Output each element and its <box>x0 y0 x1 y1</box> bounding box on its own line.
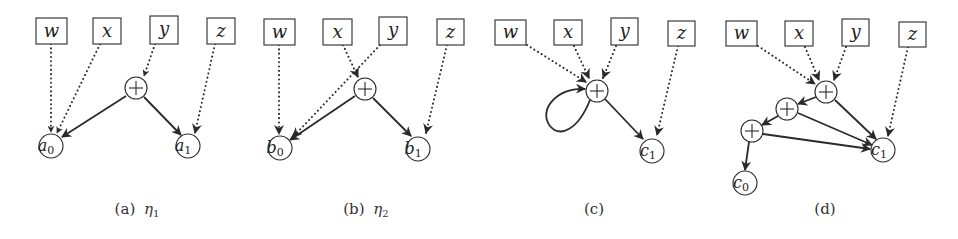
input-label-w: w <box>44 20 60 41</box>
sum-node-2 <box>776 98 798 120</box>
caption-b: (b) η2 <box>343 200 388 219</box>
input-box-z: z <box>437 19 464 45</box>
input-box-x: x <box>93 18 121 44</box>
edge-y-plus <box>603 46 616 78</box>
edge-plus1-plus2 <box>798 97 816 104</box>
edge-w-plus <box>527 45 586 82</box>
input-label-y: y <box>618 20 630 41</box>
input-box-y: y <box>379 17 407 45</box>
input-box-x: x <box>554 20 582 45</box>
panel-c: w x y z c1 (c) <box>495 18 695 218</box>
panel-b: w x y z b0 b1 <box>264 17 464 219</box>
input-label-x: x <box>102 20 112 41</box>
input-label-x: x <box>332 21 342 42</box>
edge-x-plus1 <box>805 47 819 80</box>
input-label-w: w <box>272 21 288 42</box>
output-node-a1: a1 <box>175 134 200 158</box>
output-node-b0: b0 <box>266 136 292 160</box>
input-box-w: w <box>726 21 757 46</box>
edge-plus-self-loop <box>546 89 590 131</box>
panel-d: w x y z <box>726 19 926 218</box>
input-box-x: x <box>323 19 352 45</box>
edge-plus-b1 <box>373 98 411 136</box>
output-node-c0: c0 <box>733 171 757 195</box>
edge-x-plus <box>343 45 358 77</box>
sum-node-1 <box>815 81 837 103</box>
input-label-x: x <box>563 21 573 42</box>
input-label-z: z <box>215 20 226 41</box>
input-label-y: y <box>849 21 861 42</box>
input-label-y: y <box>387 19 399 40</box>
output-node-c1: c1 <box>871 138 895 162</box>
caption-c: (c) <box>584 200 604 218</box>
panel-a: w x y z a0 a1 <box>36 16 235 219</box>
sum-node-3 <box>741 120 763 142</box>
input-label-w: w <box>503 21 519 42</box>
sum-node <box>586 80 608 102</box>
edge-z-c1 <box>888 47 908 136</box>
input-box-z: z <box>668 21 695 46</box>
input-box-y: y <box>842 19 869 46</box>
edge-plus-c1 <box>605 99 643 139</box>
input-box-y: y <box>611 18 638 45</box>
figure-canvas: w x y z a0 a1 <box>0 0 958 239</box>
input-label-x: x <box>794 22 804 43</box>
edge-plus3-c0 <box>745 142 749 170</box>
edge-z-a1 <box>195 44 215 133</box>
edge-y-plus <box>144 44 155 76</box>
input-label-w: w <box>734 22 750 43</box>
edge-plus-b0 <box>290 96 355 140</box>
input-label-z: z <box>445 21 456 42</box>
edge-plus-a1 <box>144 97 181 135</box>
caption-d: (d) <box>814 200 835 218</box>
input-label-z: z <box>907 23 918 44</box>
output-node-c1: c1 <box>640 139 664 163</box>
input-label-z: z <box>676 22 687 43</box>
input-label-y: y <box>158 18 170 39</box>
output-node-a0: a0 <box>38 134 63 158</box>
edge-z-b1 <box>426 45 447 133</box>
edge-x-a0 <box>57 44 100 133</box>
edge-plus1-c1 <box>835 100 876 139</box>
edge-plus2-plus3 <box>762 116 778 125</box>
input-box-z: z <box>207 18 235 44</box>
input-box-y: y <box>150 16 178 44</box>
input-box-x: x <box>785 21 813 46</box>
input-box-z: z <box>899 22 926 47</box>
output-node-b1: b1 <box>404 137 430 161</box>
edge-z-c1 <box>657 46 678 135</box>
input-box-w: w <box>264 19 295 45</box>
input-box-w: w <box>495 20 526 45</box>
caption-a: (a) η1 <box>115 200 160 219</box>
sum-node <box>125 77 147 99</box>
input-box-w: w <box>36 18 67 44</box>
edge-x-plus <box>574 46 589 78</box>
sum-node <box>354 78 376 100</box>
edge-y-plus1 <box>834 47 846 80</box>
